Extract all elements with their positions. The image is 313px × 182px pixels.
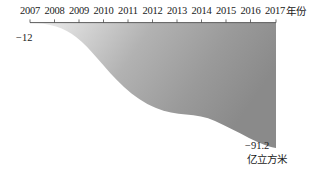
start-value-label: −12 [16, 32, 32, 44]
x-axis-labels: 2007 2008 2009 2010 2011 2012 2013 2014 … [0, 5, 313, 19]
y-axis-unit-label: 亿立方米 [247, 153, 287, 165]
x-axis-ticks [30, 19, 276, 22]
x-axis-title: 年份 [286, 5, 306, 17]
end-value-label: −91.2 [245, 140, 269, 152]
area-chart: 2007 2008 2009 2010 2011 2012 2013 2014 … [0, 0, 313, 182]
area-fill [30, 23, 276, 148]
